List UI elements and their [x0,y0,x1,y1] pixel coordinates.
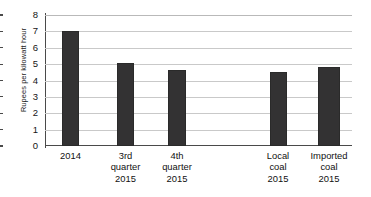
y-tick-label: 7 [3,25,45,37]
y-tick-mark [0,14,3,15]
y-tick-label: 3 [3,91,45,103]
plot-area: 012345678 [45,15,352,146]
x-tick-label: Imported coal 2015 [293,150,365,184]
y-tick-mark [0,31,3,32]
y-tick-label: 6 [3,42,45,54]
y-tick-mark [0,145,3,146]
x-axis-baseline [45,145,352,146]
y-tick-mark [0,113,3,114]
gridline [45,81,352,82]
y-tick-mark [0,129,3,130]
y-tick-mark [0,80,3,81]
gridline [45,97,352,98]
gridline [45,31,352,32]
bar [318,67,341,146]
y-tick-label: 4 [3,75,45,87]
bar [117,63,134,147]
y-tick-label: 5 [3,58,45,70]
gridline [45,15,352,16]
bar [168,70,186,146]
y-tick-label: 2 [3,107,45,119]
y-tick-mark [0,47,3,48]
y-tick-mark [0,64,3,65]
gridline [45,48,352,49]
gridline [45,113,352,114]
y-tick-label: 8 [3,9,45,21]
bar [62,31,80,146]
bar-chart: Rupees per kilowatt hour 012345678 20143… [0,0,371,197]
bar [270,72,287,146]
gridline [45,130,352,131]
gridline [45,64,352,65]
y-tick-label: 1 [3,124,45,136]
y-tick-mark [0,96,3,97]
x-tick-label: 4th quarter 2015 [141,150,213,184]
